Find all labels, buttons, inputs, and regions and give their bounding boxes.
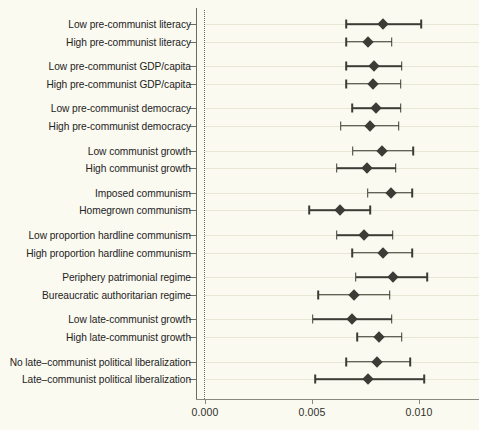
x-axis-tick-label: 0.000: [192, 406, 219, 418]
y-axis-line: [196, 8, 197, 400]
category-label: Low pre-communist literacy: [68, 19, 191, 30]
ci-cap-low: [345, 37, 347, 46]
ci-cap-high: [420, 20, 422, 29]
ci-cap-low: [345, 357, 347, 366]
ci-cap-low: [308, 206, 310, 215]
ci-cap-high: [400, 104, 402, 113]
ci-cap-low: [345, 79, 347, 88]
gridline: [205, 151, 479, 152]
gridline: [205, 277, 479, 278]
ci-cap-low: [317, 290, 319, 299]
ci-cap-low: [367, 188, 369, 197]
category-label: High late-communist growth: [66, 331, 191, 342]
category-label: High communist growth: [86, 163, 191, 174]
ci-cap-high: [411, 188, 413, 197]
ci-cap-high: [400, 79, 402, 88]
ci-cap-high: [423, 375, 425, 384]
ci-cap-low: [340, 121, 342, 130]
category-label: Low late-communist growth: [68, 314, 191, 325]
gridline: [205, 337, 479, 338]
ci-cap-high: [412, 146, 414, 155]
ci-cap-low: [356, 332, 358, 341]
x-axis-line: [196, 399, 479, 400]
ci-cap-high: [395, 164, 397, 173]
ci-cap-low: [345, 62, 347, 71]
ci-cap-low: [312, 315, 314, 324]
ci-cap-high: [401, 62, 403, 71]
x-axis-tick: [312, 399, 313, 404]
gridline: [205, 108, 479, 109]
category-label: High pre-communist democracy: [49, 120, 191, 131]
category-label: Homegrown communism: [79, 205, 191, 216]
gridline: [205, 362, 479, 363]
category-label: High proportion hardline communism: [26, 247, 191, 258]
gridline: [205, 253, 479, 254]
x-axis-tick: [205, 399, 206, 404]
ci-cap-high: [426, 273, 428, 282]
ci-cap-high: [398, 121, 400, 130]
category-label: Low pre-communist democracy: [51, 103, 191, 114]
ci-cap-low: [336, 164, 338, 173]
ci-cap-low: [355, 273, 357, 282]
forest-plot: Low pre-communist literacyHigh pre-commu…: [0, 0, 479, 430]
ci-cap-high: [409, 357, 411, 366]
category-label: Imposed communism: [95, 187, 191, 198]
category-label: High pre-communist GDP/capita: [46, 78, 191, 89]
category-label: Bureaucratic authoritarian regime: [42, 289, 191, 300]
ci-cap-low: [314, 375, 316, 384]
category-label: No late–communist political liberalizati…: [10, 356, 191, 367]
gridline: [205, 193, 479, 194]
ci-cap-low: [345, 20, 347, 29]
x-axis-tick-label: 0.010: [406, 406, 433, 418]
category-label: Low proportion hardline communism: [28, 230, 191, 241]
x-axis-tick-label: 0.005: [299, 406, 326, 418]
ci-cap-low: [352, 146, 354, 155]
ci-cap-high: [369, 206, 371, 215]
category-label: High pre-communist literacy: [66, 36, 191, 47]
x-axis-tick: [419, 399, 420, 404]
ci-cap-high: [389, 290, 391, 299]
gridline: [205, 66, 479, 67]
category-label: Low communist growth: [88, 145, 191, 156]
ci-cap-high: [391, 315, 393, 324]
ci-cap-low: [336, 231, 338, 240]
category-label: Periphery patrimonial regime: [62, 272, 191, 283]
ci-cap-low: [351, 104, 353, 113]
ci-cap-high: [401, 332, 403, 341]
ci-cap-high: [392, 231, 394, 240]
gridline: [205, 84, 479, 85]
category-label: Late–communist political liberalization: [22, 374, 191, 385]
ci-cap-high: [411, 248, 413, 257]
ci-cap-low: [351, 248, 353, 257]
gridline: [205, 42, 479, 43]
gridline: [205, 24, 479, 25]
category-label: Low pre-communist GDP/capita: [49, 61, 191, 72]
zero-reference-line: [204, 10, 205, 399]
ci-cap-high: [391, 37, 393, 46]
